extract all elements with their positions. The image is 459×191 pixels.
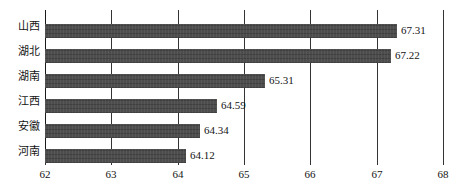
category-label: 湖南	[4, 70, 40, 84]
x-tick-label: 64	[158, 167, 198, 181]
bar	[45, 124, 200, 138]
bar-value-label: 67.22	[395, 48, 420, 63]
category-label: 湖北	[4, 45, 40, 59]
bar-row: 65.31	[45, 69, 443, 94]
category-label: 河南	[4, 145, 40, 159]
bar-chart: 67.3167.2265.3164.5964.3464.12 山西湖北湖南江西安…	[0, 0, 459, 191]
bar	[45, 99, 217, 113]
x-tick-label: 62	[25, 167, 65, 181]
bar	[45, 24, 397, 38]
x-tick-label: 65	[224, 167, 264, 181]
x-tick-label: 68	[423, 167, 459, 181]
gridline	[443, 10, 444, 160]
bar-value-label: 65.31	[269, 73, 294, 88]
bar	[45, 149, 186, 163]
x-tick-label: 66	[290, 167, 330, 181]
bar-value-label: 67.31	[401, 23, 426, 38]
x-tick-label: 67	[357, 167, 397, 181]
tick-mark	[443, 160, 444, 165]
bar-row: 64.12	[45, 144, 443, 169]
x-tick-label: 63	[91, 167, 131, 181]
bar-row: 64.34	[45, 119, 443, 144]
bar-value-label: 64.12	[190, 148, 215, 163]
bar-row: 64.59	[45, 94, 443, 119]
bar	[45, 74, 265, 88]
plot-area: 67.3167.2265.3164.5964.3464.12	[45, 10, 443, 160]
category-label: 安徽	[4, 120, 40, 134]
bar-value-label: 64.34	[204, 123, 229, 138]
bar	[45, 49, 391, 63]
category-label: 山西	[4, 20, 40, 34]
bar-row: 67.22	[45, 44, 443, 69]
bar-value-label: 64.59	[221, 98, 246, 113]
category-label: 江西	[4, 95, 40, 109]
bar-row: 67.31	[45, 19, 443, 44]
